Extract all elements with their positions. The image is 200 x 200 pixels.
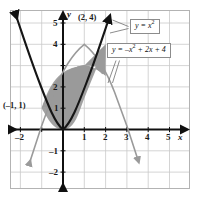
x-axis-label: x bbox=[178, 133, 183, 142]
x-tick-label-5: 5 bbox=[166, 133, 171, 142]
x-tick-label-3: 3 bbox=[124, 133, 129, 142]
y-tick-label-2: 2 bbox=[53, 83, 58, 92]
y-tick-label-1: 1 bbox=[54, 104, 59, 113]
x-tick-label--2: –2 bbox=[15, 133, 24, 142]
x-tick-label-1: 1 bbox=[82, 133, 87, 142]
point-label--1-1: (–1, 1) bbox=[3, 101, 26, 110]
y-tick-label--2: –2 bbox=[49, 168, 58, 177]
y-axis-label: y bbox=[67, 10, 71, 19]
callout-1-base: y = x bbox=[135, 21, 152, 30]
figure-frame bbox=[11, 11, 190, 189]
point-label-2-4: (2, 4) bbox=[78, 13, 96, 22]
y-tick-label-4: 4 bbox=[53, 40, 58, 49]
x-tick-label-2: 2 bbox=[103, 133, 108, 142]
callout-1-exponent: 2 bbox=[152, 19, 155, 25]
callout-y-equals-neg-x-squared: y = –x2 + 2x + 4 bbox=[107, 43, 171, 58]
callout-2-suffix: + 2x + 4 bbox=[136, 45, 166, 54]
x-tick-label-4: 4 bbox=[145, 133, 150, 142]
graph-canvas bbox=[0, 0, 200, 200]
y-tick-label-5: 5 bbox=[53, 19, 58, 28]
math-graph-figure: x y –2 1 2 3 4 5 5 4 2 1 –1 –2 (2, 4) (–… bbox=[0, 0, 200, 200]
callout-y-equals-x-squared: y = x2 bbox=[130, 19, 160, 34]
callout-2-prefix: y = –x bbox=[112, 45, 133, 54]
y-tick-label--1: –1 bbox=[49, 147, 58, 156]
